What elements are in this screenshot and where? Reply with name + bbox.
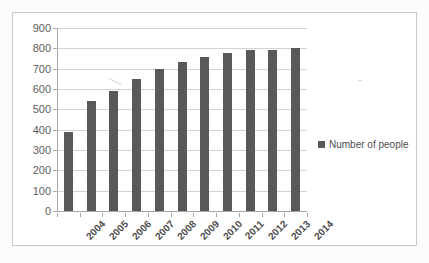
x-axis-tick xyxy=(216,213,217,217)
y-axis-tick-label: 500 xyxy=(21,104,51,115)
x-axis-tick-label: 2014 xyxy=(312,219,335,242)
scan-artifact-dot xyxy=(358,80,362,81)
chart-legend: Number of people xyxy=(318,139,409,150)
y-axis-tick-label: 900 xyxy=(21,23,51,34)
x-axis-tick xyxy=(148,213,149,217)
x-axis-tick xyxy=(193,213,194,217)
bar xyxy=(109,91,118,211)
category-axis-line xyxy=(57,211,307,212)
x-axis-labels: 2004200520062007200820092010201120122013… xyxy=(57,213,307,259)
y-axis-tick xyxy=(53,109,57,110)
y-axis-tick-label: 300 xyxy=(21,145,51,156)
x-axis-tick xyxy=(239,213,240,217)
y-axis-tick xyxy=(53,69,57,70)
x-axis-tick-label: 2012 xyxy=(267,219,290,242)
bar xyxy=(155,69,164,211)
y-axis-tick-label: 0 xyxy=(21,206,51,217)
y-axis-tick xyxy=(53,150,57,151)
y-axis-tick-label: 200 xyxy=(21,165,51,176)
bar xyxy=(223,53,232,211)
bar xyxy=(268,50,277,211)
legend-swatch-icon xyxy=(318,141,325,148)
x-axis-tick-label: 2005 xyxy=(108,219,131,242)
x-axis-tick-label: 2007 xyxy=(153,219,176,242)
x-axis-tick xyxy=(125,213,126,217)
y-axis-tick-label: 400 xyxy=(21,125,51,136)
x-axis-tick xyxy=(102,213,103,217)
x-axis-tick xyxy=(171,213,172,217)
bar xyxy=(132,79,141,211)
y-axis-tick-label: 600 xyxy=(21,84,51,95)
y-axis-tick xyxy=(53,211,57,212)
y-axis-tick-label: 800 xyxy=(21,43,51,54)
x-axis-tick xyxy=(57,213,58,217)
bar xyxy=(64,132,73,211)
bar xyxy=(246,50,255,211)
legend-label: Number of people xyxy=(329,139,409,150)
bar xyxy=(291,48,300,211)
x-axis-tick xyxy=(80,213,81,217)
chart-screenshot: 9008007006005004003002001000 20042005200… xyxy=(0,0,429,263)
y-axis-tick xyxy=(53,191,57,192)
x-axis-tick-label: 2013 xyxy=(289,219,312,242)
gridline xyxy=(57,48,307,49)
plot-area xyxy=(57,28,307,211)
x-axis-tick-label: 2011 xyxy=(244,219,266,241)
y-axis-tick-label: 700 xyxy=(21,64,51,75)
x-axis-tick xyxy=(262,213,263,217)
y-axis-tick xyxy=(53,170,57,171)
y-axis-tick xyxy=(53,28,57,29)
y-axis-tick xyxy=(53,130,57,131)
x-axis-tick-label: 2006 xyxy=(130,219,153,242)
x-axis-tick-label: 2008 xyxy=(176,219,199,242)
x-axis-tick-label: 2009 xyxy=(199,219,222,242)
y-axis-tick xyxy=(53,48,57,49)
bar xyxy=(200,57,209,211)
bar xyxy=(87,101,96,211)
bar xyxy=(178,62,187,211)
y-axis-tick xyxy=(53,89,57,90)
chart-frame: 9008007006005004003002001000 20042005200… xyxy=(12,12,417,246)
y-axis-tick-label: 100 xyxy=(21,186,51,197)
x-axis-tick-label: 2010 xyxy=(221,219,244,242)
gridline xyxy=(57,28,307,29)
x-axis-tick xyxy=(307,213,308,217)
y-axis-labels: 9008007006005004003002001000 xyxy=(13,13,51,247)
x-axis-tick xyxy=(284,213,285,217)
x-axis-tick-label: 2004 xyxy=(85,219,108,242)
